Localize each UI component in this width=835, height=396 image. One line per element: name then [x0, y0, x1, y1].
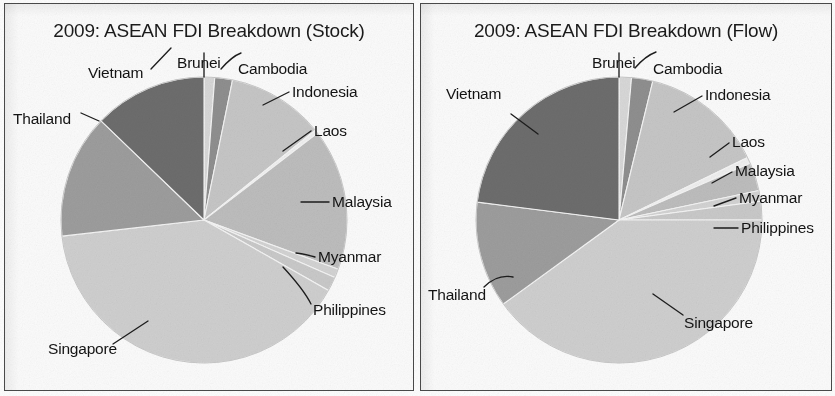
pie-chart-stock: [58, 74, 350, 366]
slice-label-indonesia-stock: Indonesia: [292, 84, 357, 100]
slice-label-singapore-stock: Singapore: [48, 341, 117, 357]
slice-label-laos-stock: Laos: [314, 123, 347, 139]
slice-label-brunei-flow: Brunei: [592, 55, 636, 71]
slice-label-vietnam-stock: Vietnam: [88, 65, 143, 81]
slice-label-thailand-stock: Thailand: [13, 111, 71, 127]
slice-label-philippines-flow: Philippines: [741, 220, 814, 236]
chart-panel-stock: 2009: ASEAN FDI Breakdown (Stock): [4, 3, 414, 391]
chart-title-flow: 2009: ASEAN FDI Breakdown (Flow): [421, 20, 831, 42]
slice-label-laos-flow: Laos: [732, 134, 765, 150]
chart-panel-flow: 2009: ASEAN FDI Breakdown (Flow) Vietnam: [420, 3, 832, 391]
slice-label-vietnam-flow: Vietnam: [446, 86, 501, 102]
chart-title-stock: 2009: ASEAN FDI Breakdown (Stock): [5, 20, 413, 42]
leader-vietnam-stock: [151, 48, 171, 69]
slice-label-brunei-stock: Brunei: [177, 55, 221, 71]
slice-label-thailand-flow: Thailand: [428, 287, 486, 303]
pie-svg-stock: [58, 74, 350, 366]
slice-label-malaysia-stock: Malaysia: [332, 194, 392, 210]
slice-label-philippines-stock: Philippines: [313, 302, 386, 318]
slice-label-myanmar-stock: Myanmar: [318, 249, 381, 265]
slice-label-indonesia-flow: Indonesia: [705, 87, 770, 103]
slice-label-myanmar-flow: Myanmar: [739, 190, 802, 206]
figure-canvas: 2009: ASEAN FDI Breakdown (Stock): [0, 0, 835, 396]
slice-label-cambodia-flow: Cambodia: [653, 61, 722, 77]
slice-label-singapore-flow: Singapore: [684, 315, 753, 331]
slice-label-malaysia-flow: Malaysia: [735, 163, 795, 179]
slice-label-cambodia-stock: Cambodia: [238, 61, 307, 77]
